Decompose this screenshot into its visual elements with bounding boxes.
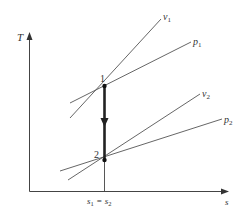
curve-label-p2: p2 xyxy=(223,114,233,127)
curve-label-p1: p1 xyxy=(192,36,202,49)
ts-diagram: T s v1 p1 v2 p2 1 2 s1=s2 xyxy=(0,0,249,217)
curve-label-v1: v1 xyxy=(163,11,171,24)
curve-v2 xyxy=(68,94,200,180)
x-axis-arrow-icon xyxy=(221,189,229,195)
x-axis-label: s xyxy=(225,197,229,207)
curve-v1 xyxy=(70,19,161,118)
y-axis-label: T xyxy=(17,31,24,43)
process-arrow-icon xyxy=(101,118,109,127)
y-axis-arrow-icon xyxy=(27,32,33,40)
state-point-2 xyxy=(102,158,106,162)
state-point-1 xyxy=(102,84,106,88)
curve-p2 xyxy=(60,119,222,171)
state-label-2: 2 xyxy=(94,149,99,160)
curve-p1 xyxy=(70,42,191,103)
x-tick-label: s1=s2 xyxy=(87,196,112,207)
curve-label-v2: v2 xyxy=(202,88,210,101)
state-label-1: 1 xyxy=(100,73,105,84)
